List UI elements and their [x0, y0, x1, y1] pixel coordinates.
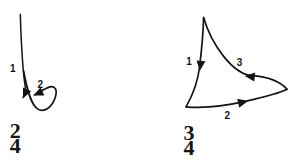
beat-3-stroke	[204, 18, 287, 90]
beat-3-label: 3	[237, 57, 243, 68]
beat-1-arrowhead-icon	[195, 60, 205, 71]
beat-1-label: 1	[186, 56, 192, 67]
beat-1-label: 1	[10, 63, 16, 74]
beat-3-arrowhead-icon	[244, 72, 255, 82]
beat-1-stroke	[20, 15, 25, 98]
beat-2-label: 2	[37, 79, 43, 90]
figure-two-four: 1 2 2 4	[10, 15, 56, 158]
beat-2-arrowhead-icon	[237, 97, 249, 108]
time-signature-denominator: 4	[184, 135, 195, 160]
beat-2-label: 2	[224, 110, 230, 121]
conducting-patterns-diagram: 1 2 2 4 1 3 2 3 4	[0, 0, 299, 163]
beat-2-stroke	[186, 89, 287, 107]
diagram-svg: 1 2 2 4 1 3 2 3 4	[0, 0, 299, 163]
time-signature-denominator: 4	[10, 133, 21, 158]
figure-three-four: 1 3 2 3 4	[184, 18, 288, 161]
